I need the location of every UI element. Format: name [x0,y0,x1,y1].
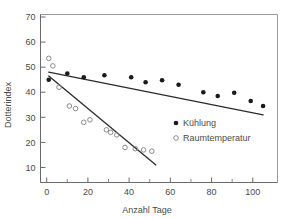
x-tick-label: 80 [207,187,217,197]
y-tick-label: 20 [25,138,35,148]
data-point [201,90,206,95]
legend-marker-filled-circle-icon [174,121,179,126]
data-point [81,75,86,80]
y-tick-label: 40 [25,87,35,97]
scatter-chart: 020406080100 10203040506070 KühlungRaumt… [0,0,294,219]
data-point [248,99,253,104]
data-point [129,75,134,80]
x-tick-label: 20 [83,187,93,197]
data-point [102,73,107,78]
data-point [176,82,181,87]
chart-figure: 020406080100 10203040506070 KühlungRaumt… [0,0,294,219]
x-tick-label: 100 [245,187,260,197]
x-axis-title: Anzahl Tage [122,205,171,215]
data-point [261,104,266,109]
legend-label: Raumtemperatur [183,133,251,143]
x-tick-label: 60 [165,187,175,197]
data-point [46,77,51,82]
data-point [143,80,148,85]
x-tick-label: 0 [44,187,49,197]
x-tick-label: 40 [124,187,134,197]
y-tick-label: 50 [25,62,35,72]
data-point [215,94,220,99]
y-tick-label: 70 [25,12,35,22]
y-axis-title: Dotterindex [3,81,13,128]
legend-label: Kühlung [183,118,216,128]
data-point [65,71,70,76]
y-tick-label: 60 [25,37,35,47]
data-point [160,78,165,83]
y-tick-label: 30 [25,113,35,123]
data-point [232,90,237,95]
y-tick-label: 10 [25,163,35,173]
